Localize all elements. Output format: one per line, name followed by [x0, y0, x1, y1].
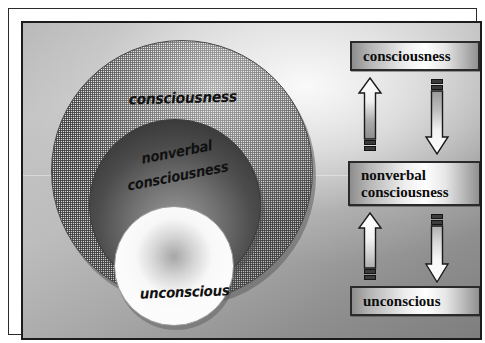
arrow-up-nonverbal-to-consciousness	[357, 77, 383, 157]
circle-label-unconscious: unconscious	[140, 282, 230, 301]
flow-diagram: consciousness	[331, 23, 482, 340]
diagram-canvas: consciousness nonverbal consciousness un…	[0, 0, 485, 343]
flow-node-nonverbal-consciousness[interactable]: nonverbal consciousness	[348, 161, 481, 206]
arrow-up-unconscious-to-nonverbal	[357, 212, 383, 284]
circle-label-consciousness: consciousness	[129, 87, 238, 108]
arrow-down-consciousness-to-nonverbal	[424, 77, 450, 157]
arrow-down-nonverbal-to-unconscious	[424, 212, 450, 284]
flow-node-nonverbal-label-line2: consciousness	[361, 184, 449, 201]
inner-frame: consciousness nonverbal consciousness un…	[21, 21, 482, 340]
inner-circle-unconscious	[114, 206, 234, 326]
flow-node-consciousness-label: consciousness	[363, 48, 451, 65]
flow-node-unconscious-label: unconscious	[363, 293, 441, 310]
flow-node-consciousness[interactable]: consciousness	[350, 41, 480, 71]
nested-circles-diagram: consciousness nonverbal consciousness un…	[23, 23, 323, 340]
flow-node-nonverbal-label-line1: nonverbal	[361, 167, 426, 184]
outer-frame: consciousness nonverbal consciousness un…	[8, 8, 477, 335]
flow-node-unconscious[interactable]: unconscious	[350, 286, 481, 316]
